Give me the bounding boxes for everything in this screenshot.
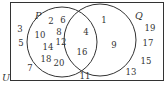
element-number: 17 [143,38,154,48]
element-number: 20 [54,58,65,68]
element-number: 2 [48,16,53,26]
element-number: 14 [43,42,54,52]
element-number: 19 [145,23,156,33]
element-number: 4 [83,27,88,37]
element-number: 12 [56,37,67,47]
element-number: 1 [101,15,106,25]
element-number: 18 [41,54,52,64]
element-number: 6 [60,15,65,25]
element-number: 7 [27,63,32,73]
venn-diagram: 3572610812141820416191113191715 PQU [0,0,165,85]
element-number: 8 [56,27,61,37]
set-q-circle [64,4,136,76]
element-number: 5 [18,38,23,48]
set-label-p: P [34,10,42,21]
element-number: 13 [126,67,137,77]
set-label-q: Q [135,10,143,21]
element-number: 9 [111,40,116,50]
set-label-u: U [2,72,11,83]
element-number: 11 [80,71,91,81]
element-number: 10 [35,30,46,40]
element-number: 15 [141,56,152,66]
element-number: 3 [17,24,22,34]
element-number: 16 [77,47,88,57]
